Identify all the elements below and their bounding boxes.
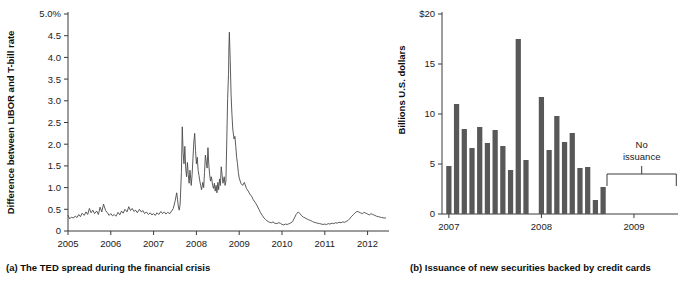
bar-2007-07 — [493, 130, 498, 214]
bar-2007-01 — [446, 166, 451, 214]
x-tick-label-a-0: 2005 — [57, 238, 78, 249]
bar-2008-08 — [593, 200, 598, 214]
x-tick-label-a-7: 2012 — [357, 238, 378, 249]
y-tick-label-a-3: 1.5 — [48, 160, 61, 171]
bar-2007-02 — [454, 104, 459, 214]
x-tick-label-b-2: 2009 — [623, 221, 644, 232]
panel-b-caption: (b) Issuance of new securities backed by… — [410, 262, 651, 273]
bar-2008-01 — [539, 97, 544, 214]
bar-2008-07 — [585, 167, 590, 214]
bar-2008-09 — [600, 187, 605, 214]
bar-2008-04 — [562, 142, 567, 214]
y-tick-label-a-6: 3.0 — [48, 95, 61, 106]
y-tick-label-a-5: 2.5 — [48, 117, 61, 128]
y-tick-label-a-8: 4.0 — [48, 52, 61, 63]
bar-2008-05 — [570, 133, 575, 214]
bar-2007-11 — [523, 160, 528, 214]
bar-2007-06 — [485, 143, 490, 214]
x-tick-label-b-1: 2008 — [531, 221, 552, 232]
bar-2007-09 — [508, 170, 513, 214]
bar-2007-05 — [477, 127, 482, 214]
y-tick-label-a-0: 0 — [56, 225, 61, 236]
no-issuance-bracket — [607, 174, 676, 186]
x-tick-label-a-5: 2010 — [271, 238, 292, 249]
no-issuance-label-line1: No — [636, 139, 648, 150]
y-tick-label-a-4: 2.0 — [48, 139, 61, 150]
x-tick-label-a-4: 2009 — [229, 238, 250, 249]
y-tick-label-a-10: 5.0% — [39, 8, 61, 19]
x-tick-label-a-3: 2008 — [186, 238, 207, 249]
y-axis-title-b: Billions U.S. dollars — [396, 45, 407, 134]
y-tick-label-a-2: 1.0 — [48, 182, 61, 193]
no-issuance-label-line2: issuance — [623, 151, 661, 162]
bar-2007-10 — [516, 39, 521, 214]
y-tick-label-a-7: 3.5 — [48, 74, 61, 85]
y-tick-label-a-1: 0.5 — [48, 204, 61, 215]
y-tick-label-a-9: 4.5 — [48, 30, 61, 41]
y-axis-title-a: Difference between LIBOR and T-bill rate — [5, 31, 16, 215]
y-tick-label-b-1: 5 — [430, 158, 435, 169]
x-tick-label-a-1: 2006 — [100, 238, 121, 249]
bar-2007-03 — [462, 129, 467, 214]
y-tick-label-b-3: 15 — [424, 58, 435, 69]
y-tick-label-b-2: 10 — [424, 108, 435, 119]
bar-2008-03 — [554, 116, 559, 214]
panel-a-ted-spread-chart: 00.51.01.52.02.53.03.54.04.55.0%20052006… — [0, 0, 392, 283]
y-tick-label-b-0: 0 — [430, 208, 435, 219]
issuance-bar-plot: 051015$20200720082009Billions U.S. dolla… — [392, 0, 683, 258]
x-tick-label-a-6: 2011 — [315, 238, 335, 249]
y-tick-label-b-4: $20 — [419, 8, 435, 19]
bar-2007-04 — [469, 148, 474, 214]
figure-root: 00.51.01.52.02.53.03.54.04.55.0%20052006… — [0, 0, 683, 283]
x-tick-label-b-0: 2007 — [438, 221, 459, 232]
bar-2007-08 — [500, 146, 505, 214]
panel-b-issuance-chart: 051015$20200720082009Billions U.S. dolla… — [392, 0, 683, 283]
bar-2008-02 — [547, 150, 552, 214]
ted-spread-series-line — [68, 32, 386, 225]
panel-a-caption: (a) The TED spread during the financial … — [6, 262, 210, 273]
ted-spread-plot: 00.51.01.52.02.53.03.54.04.55.0%20052006… — [0, 0, 392, 258]
x-tick-label-a-2: 2007 — [143, 238, 164, 249]
bar-2008-06 — [577, 168, 582, 214]
